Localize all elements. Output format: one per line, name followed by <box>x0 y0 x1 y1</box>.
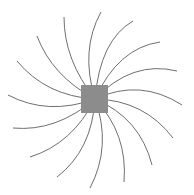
spiral-arm-5 <box>95 90 182 105</box>
spiral-svg <box>0 0 194 195</box>
center-hub-square <box>81 85 108 113</box>
spiral-diagram <box>0 0 194 195</box>
